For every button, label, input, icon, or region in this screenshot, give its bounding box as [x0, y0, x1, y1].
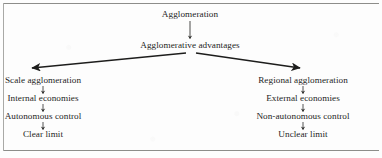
node-external-economies: External economies [266, 93, 340, 104]
connector-advantages-to-left [32, 53, 186, 68]
node-non-autonomous-control: Non-autonomous control [256, 111, 349, 122]
node-agglomeration: Agglomeration [162, 9, 218, 20]
connector-advantages-to-right [196, 53, 300, 68]
node-unclear-limit: Unclear limit [278, 129, 327, 140]
node-internal-economies: Internal economies [7, 93, 78, 104]
node-regional-agglomeration: Regional agglomeration [258, 75, 348, 86]
node-scale-agglomeration: Scale agglomeration [5, 75, 81, 86]
node-agglomerative-advantages: Agglomerative advantages [140, 40, 239, 51]
agglomeration-flow-diagram: Agglomeration Agglomerative advantages S… [0, 0, 382, 158]
node-autonomous-control: Autonomous control [5, 111, 82, 122]
node-clear-limit: Clear limit [23, 129, 63, 140]
